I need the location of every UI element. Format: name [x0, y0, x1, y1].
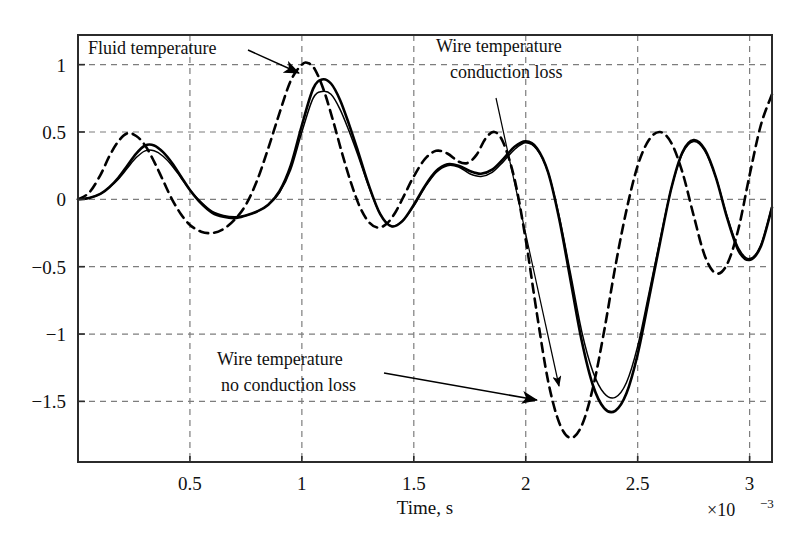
y-tick-label: 0.5 [42, 122, 66, 143]
x-axis-exponent-superscript: −3 [760, 496, 774, 511]
figure-root: 0.511.522.5310.50−0.5−1−1.5 Fluid temper… [0, 0, 805, 543]
x-tick-label: 2 [521, 473, 531, 494]
x-tick-label: 2.5 [626, 473, 650, 494]
y-tick-label: −0.5 [32, 257, 66, 278]
x-tick-label: 1 [297, 473, 307, 494]
line-chart: 0.511.522.5310.50−0.5−1−1.5 Fluid temper… [0, 0, 805, 543]
x-tick-label: 1.5 [402, 473, 426, 494]
y-tick-label: 0 [57, 189, 67, 210]
annotation-text: Fluid temperature [88, 38, 216, 58]
x-axis-label: Time, s [397, 497, 453, 518]
y-tick-label: −1 [46, 324, 66, 345]
y-tick-label: −1.5 [32, 391, 66, 412]
x-tick-label: 3 [745, 473, 755, 494]
x-axis-exponent-base: ×10 [707, 500, 735, 520]
y-tick-label: 1 [57, 55, 67, 76]
x-tick-label: 0.5 [178, 473, 202, 494]
